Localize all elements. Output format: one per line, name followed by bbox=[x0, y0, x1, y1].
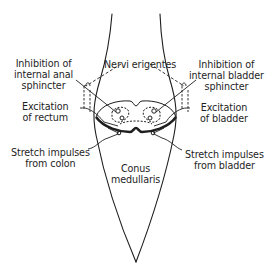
inhibition-anal-line-2: internal anal bbox=[14, 69, 73, 80]
inhibition-anal-line-1: Inhibition of bbox=[14, 58, 73, 69]
label-stretch-colon: Stretch impulses from colon bbox=[11, 147, 90, 169]
excitation-bladder-line-1: Excitation bbox=[200, 102, 248, 113]
stretch-bladder-line-2: from bladder bbox=[185, 160, 264, 171]
label-excitation-rectum: Excitation of rectum bbox=[22, 101, 69, 123]
inhibition-bladder-line-1: Inhibition of bbox=[189, 59, 264, 70]
label-excitation-bladder: Excitation of bladder bbox=[200, 102, 248, 124]
conus-line-2: medullaris bbox=[111, 174, 160, 185]
inhibition-bladder-line-3: sphincter bbox=[189, 81, 264, 92]
stretch-colon-line-1: Stretch impulses bbox=[11, 147, 90, 158]
excitation-rectum-line-2: of rectum bbox=[22, 112, 69, 123]
nervi-erigentes-text: Nervi erigentes bbox=[104, 59, 176, 70]
label-inhibition-bladder-sphincter: Inhibition of internal bladder sphincter bbox=[189, 59, 264, 92]
stretch-bladder-line-1: Stretch impulses bbox=[185, 149, 264, 160]
label-nervi-erigentes: Nervi erigentes bbox=[104, 59, 176, 70]
excitation-rectum-line-1: Excitation bbox=[22, 101, 69, 112]
label-inhibition-anal-sphincter: Inhibition of internal anal sphincter bbox=[14, 58, 73, 91]
conus-left-edge bbox=[94, 14, 136, 262]
spinal-reflex-diagram: Nervi erigentes Inhibition of internal a… bbox=[0, 0, 272, 270]
conus-right-edge bbox=[136, 14, 176, 262]
diagram-artwork bbox=[0, 0, 272, 270]
conus-line-1: Conus bbox=[111, 163, 160, 174]
label-stretch-bladder: Stretch impulses from bladder bbox=[185, 149, 264, 171]
label-conus-medullaris: Conus medullaris bbox=[111, 163, 160, 185]
inhibition-bladder-line-2: internal bladder bbox=[189, 70, 264, 81]
excitation-bladder-line-2: of bladder bbox=[200, 113, 248, 124]
stretch-colon-line-2: from colon bbox=[11, 158, 90, 169]
inhibition-anal-line-3: sphincter bbox=[14, 80, 73, 91]
